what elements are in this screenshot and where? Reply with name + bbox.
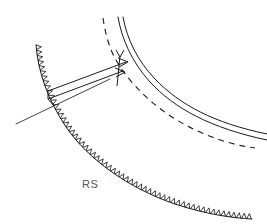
figure-container: RS — [0, 0, 267, 224]
structural-diagram-svg: RS — [0, 0, 267, 224]
rs-label: RS — [82, 178, 98, 190]
